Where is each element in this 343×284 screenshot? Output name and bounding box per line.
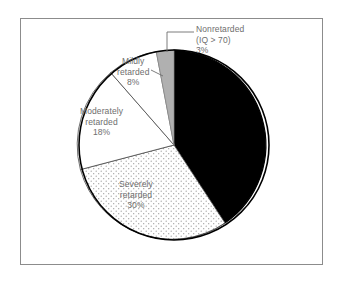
pie-label-nonretarded-line2: (IQ > 70) — [196, 35, 244, 46]
pie-label-moderately-percent: 18% — [80, 127, 123, 138]
pie-label-moderately-line1: Moderately — [80, 106, 123, 116]
pie-label-moderately-retarded: Moderately retarded 18% — [80, 106, 123, 138]
pie-label-mildly-retarded: Mildly retarded 8% — [117, 56, 149, 88]
pie-chart: Nonretarded (IQ > 70) 3% Mildly retarded… — [0, 0, 343, 284]
pie-chart-svg — [0, 0, 343, 284]
pie-label-severely-line1: Severely — [119, 179, 153, 189]
pie-label-mildly-line2: retarded — [117, 67, 149, 78]
pie-label-severely-retarded: Severely retarded 30% — [119, 179, 153, 211]
pie-label-mildly-line1: Mildly — [122, 56, 144, 66]
leader-line-nonretarded — [167, 32, 194, 52]
pie-label-nonretarded: Nonretarded (IQ > 70) 3% — [196, 24, 244, 56]
pie-label-severely-percent: 30% — [119, 200, 153, 211]
pie-label-nonretarded-line1: Nonretarded — [196, 24, 244, 34]
pie-label-mildly-percent: 8% — [117, 77, 149, 88]
pie-label-moderately-line2: retarded — [80, 117, 123, 128]
pie-label-severely-line2: retarded — [119, 190, 153, 201]
pie-label-nonretarded-percent: 3% — [196, 45, 244, 56]
